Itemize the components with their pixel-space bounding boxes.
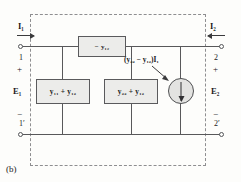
current-label-i2: I₂ (210, 22, 216, 31)
current-arrow-i1 (17, 35, 34, 36)
dependent-source-label: (y₂₂ − y₁₂)I₁ (124, 56, 159, 64)
terminal-label-1: 1 (19, 54, 23, 62)
figure-two-port-equivalent-circuit: − y₁₂ y₁₁ + y₁₂ y₂₂ + y₁₂ (y₂₂ − y₁₂)I₁ … (0, 0, 241, 182)
current-arrow-i2 (208, 35, 225, 36)
wire-top-right-lead (126, 46, 221, 47)
terminal-node-2-prime (219, 132, 224, 137)
element-series-neg-y12: − y₁₂ (78, 36, 126, 57)
terminal-label-1-prime: 1′ (19, 120, 25, 128)
terminal-label-2-prime: 2′ (214, 120, 220, 128)
wire-bottom-rail (20, 134, 221, 135)
terminal-label-2: 2 (214, 54, 218, 62)
voltage-label-e1: E₁ (13, 87, 21, 96)
element-series-label: − y₁₂ (95, 43, 109, 51)
terminal-node-1 (18, 44, 23, 49)
polarity-minus-right: − (213, 110, 218, 119)
polarity-minus-left: − (17, 110, 22, 119)
figure-caption: (b) (6, 165, 17, 174)
element-shunt-right-label: y₂₂ + y₁₂ (118, 87, 144, 96)
source-leader-arrow-icon (150, 64, 174, 84)
current-source-arrow-icon (181, 82, 182, 101)
element-shunt-left: y₁₁ + y₁₂ (36, 79, 90, 104)
terminal-node-2 (219, 44, 224, 49)
polarity-plus-right: + (213, 65, 218, 74)
terminal-node-1-prime (18, 132, 23, 137)
element-shunt-left-label: y₁₁ + y₁₂ (50, 87, 76, 96)
voltage-label-e2: E₂ (211, 87, 219, 96)
polarity-plus-left: + (17, 65, 22, 74)
current-label-i1: I₁ (18, 22, 24, 31)
